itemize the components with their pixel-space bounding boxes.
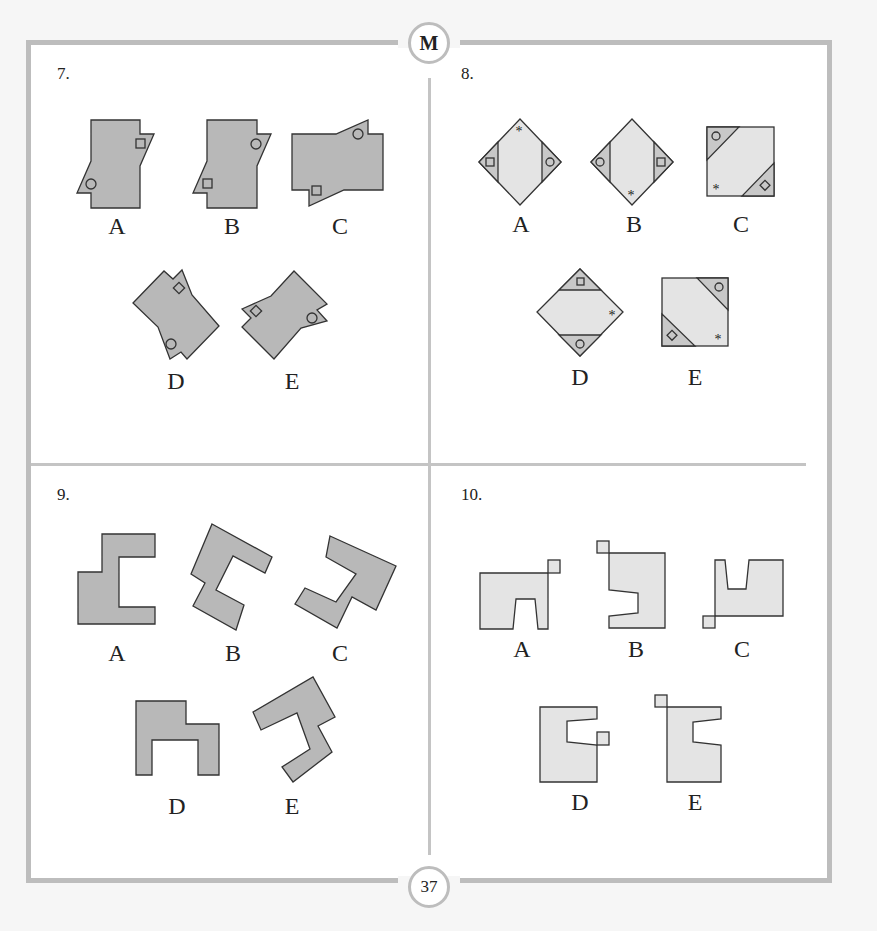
q9-option-a[interactable]: A [97,640,137,667]
q7-option-c[interactable]: C [320,213,360,240]
q10-option-d-figure [540,707,609,782]
q9-option-e[interactable]: E [272,793,312,820]
q9-option-c[interactable]: C [320,640,360,667]
q10-option-e-figure [655,695,721,782]
q9-option-d-figure [136,701,219,775]
figures-canvas: * * * * [0,0,877,931]
q7-option-e[interactable]: E [272,368,312,395]
q7-option-c-figure [292,120,383,206]
q7-option-e-figure [242,271,327,359]
q10-option-e[interactable]: E [675,789,715,816]
q7-option-b[interactable]: B [212,213,252,240]
q9-option-a-figure [78,534,155,624]
q8-option-d[interactable]: D [560,364,600,391]
q10-option-b-figure [597,541,665,628]
q8-option-e[interactable]: E [675,364,715,391]
q8-option-a[interactable]: A [501,211,541,238]
q8-option-b-figure: * [591,119,673,205]
svg-text:*: * [628,188,635,203]
q9-option-c-figure [295,536,396,628]
q8-option-e-figure: * [662,278,728,347]
q9-option-e-figure [253,677,335,782]
q8-option-b[interactable]: B [614,211,654,238]
q10-option-a[interactable]: A [502,636,542,663]
svg-text:*: * [715,332,722,347]
q10-option-d[interactable]: D [560,789,600,816]
svg-text:*: * [713,182,720,197]
q7-option-d[interactable]: D [156,368,196,395]
q7-option-a-figure [77,120,154,208]
q10-option-c-figure [703,560,783,628]
q10-option-b[interactable]: B [616,636,656,663]
q7-option-a[interactable]: A [97,213,137,240]
q9-option-d[interactable]: D [157,793,197,820]
q10-option-c[interactable]: C [722,636,762,663]
q9-option-b[interactable]: B [213,640,253,667]
svg-text:*: * [609,308,616,323]
svg-text:*: * [516,124,523,139]
q10-option-a-figure [480,560,560,629]
q7-option-d-figure [133,270,219,359]
q8-option-d-figure: * [537,269,623,356]
q8-option-c[interactable]: C [721,211,761,238]
q7-option-b-figure [193,120,271,208]
q8-option-c-figure: * [707,127,774,197]
q8-option-a-figure: * [479,119,561,205]
q9-option-b-figure [191,524,272,630]
